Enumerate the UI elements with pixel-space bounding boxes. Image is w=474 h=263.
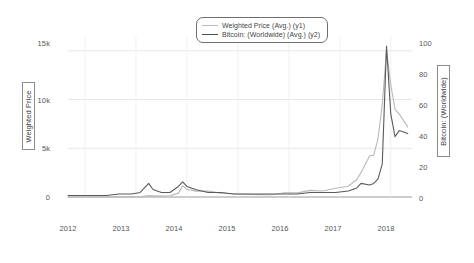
x-tick-label: 2014	[152, 224, 196, 233]
y2-tick-label: 0	[419, 194, 449, 203]
chart-container: 15k 10k 5k 0 100 80 60 40 20 0 2012 2013…	[0, 0, 474, 263]
y2-axis-title-text: Bitcoin: (Worldwide)	[439, 77, 448, 146]
legend-color-swatch	[202, 34, 218, 35]
y2-tick-label: 100	[419, 39, 449, 48]
x-tick-label: 2013	[99, 224, 143, 233]
y1-axis-title-text: Weighted Price	[24, 90, 33, 142]
chart-legend: Weighted Price (Avg.) (y1) Bitcoin: (Wor…	[196, 17, 328, 43]
y1-axis-title: Weighted Price	[22, 82, 35, 150]
y1-tick-label: 0	[10, 193, 50, 202]
y2-axis-title: Bitcoin: (Worldwide)	[437, 65, 450, 157]
legend-item-label: Weighted Price (Avg.) (y1)	[222, 22, 305, 29]
y2-tick-label: 20	[419, 163, 449, 172]
y1-tick-label: 15k	[10, 39, 50, 48]
legend-item-label: Bitcoin: (Worldwide) (Avg.) (y2)	[222, 31, 320, 38]
x-tick-label: 2017	[311, 224, 355, 233]
x-tick-label: 2015	[205, 224, 249, 233]
legend-item-bitcoin-worldwide[interactable]: Bitcoin: (Worldwide) (Avg.) (y2)	[202, 30, 320, 39]
legend-color-swatch	[202, 25, 218, 26]
x-tick-label: 2016	[258, 224, 302, 233]
legend-item-weighted-price[interactable]: Weighted Price (Avg.) (y1)	[202, 21, 320, 30]
x-tick-label: 2018	[364, 224, 408, 233]
x-tick-label: 2012	[46, 224, 90, 233]
